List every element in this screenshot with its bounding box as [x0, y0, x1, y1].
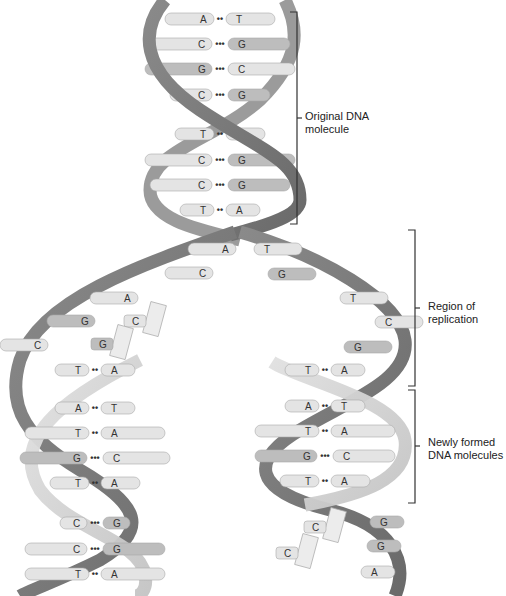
base-C: C — [150, 38, 212, 50]
base-C: C — [0, 339, 48, 351]
base-letter: T — [350, 293, 356, 304]
base-letter: G — [113, 544, 121, 555]
label-original-dna: Original DNA molecule — [305, 110, 369, 136]
base-letter: C — [312, 522, 319, 533]
hydrogen-bonds: •• — [92, 478, 98, 488]
base-T: T — [25, 568, 89, 580]
base-letter: C — [343, 451, 350, 462]
base-T: T — [55, 364, 89, 376]
base-G: G — [103, 517, 130, 529]
base-letter: C — [198, 180, 205, 191]
base-letter: A — [111, 569, 118, 580]
base-letter: C — [113, 453, 120, 464]
base-A: A — [331, 475, 370, 487]
base-C: C — [25, 543, 87, 555]
base-A: A — [101, 364, 135, 376]
base-pair: AT•• — [285, 400, 365, 412]
base-T: T — [254, 243, 302, 255]
base-letter: G — [198, 64, 206, 75]
base-A: A — [90, 292, 138, 304]
base-G: G — [228, 89, 270, 101]
base-pair: CG••• — [150, 38, 290, 50]
base-T: T — [340, 292, 388, 304]
hydrogen-bonds: •• — [92, 403, 98, 413]
base-A: A — [331, 425, 395, 437]
base-letter: A — [200, 14, 207, 25]
base-letter: A — [371, 567, 378, 578]
base-letter: T — [341, 401, 347, 412]
base-G: G — [228, 38, 290, 50]
base-letter: G — [113, 518, 121, 529]
base-C: C — [60, 517, 87, 529]
base-letter: A — [75, 403, 82, 414]
base-pair: TA•• — [25, 427, 165, 439]
base-letter: C — [73, 518, 80, 529]
base-letter: T — [111, 403, 117, 414]
label-newly-formed: Newly formed DNA molecules — [428, 436, 503, 462]
base-letter: T — [75, 365, 81, 376]
base-T: T — [25, 427, 89, 439]
base-G: G — [370, 516, 404, 528]
base-T: T — [175, 128, 214, 140]
base-letter: A — [305, 401, 312, 412]
base-letter: C — [199, 268, 206, 279]
base-letter: A — [341, 426, 348, 437]
base-G: G — [103, 543, 165, 555]
base-letter: C — [284, 548, 291, 559]
base-letter: C — [132, 316, 139, 327]
base-T: T — [101, 402, 135, 414]
hydrogen-bonds: ••• — [90, 544, 99, 554]
base-letter: A — [341, 365, 348, 376]
base-letter: G — [238, 155, 246, 166]
base-letter: G — [380, 517, 388, 528]
base-letter: T — [264, 244, 270, 255]
hydrogen-bonds: •• — [217, 205, 223, 215]
base-letter: C — [198, 39, 205, 50]
hydrogen-bonds: ••• — [215, 39, 224, 49]
base-letter: G — [73, 453, 81, 464]
hydrogen-bonds: •• — [322, 401, 328, 411]
base-A: A — [188, 243, 236, 255]
base-A: A — [331, 364, 365, 376]
base-letter: G — [238, 90, 246, 101]
base-pair: AT•• — [165, 13, 275, 25]
base-pair: TA•• — [280, 475, 370, 487]
base-T: T — [331, 400, 365, 412]
base-T: T — [50, 477, 89, 489]
label-region-of-replication: Region of replication — [428, 300, 478, 326]
base-pair: AT•• — [55, 402, 135, 414]
base-letter: T — [200, 129, 206, 140]
hydrogen-bonds: •• — [217, 14, 223, 24]
hydrogen-bonds: •• — [322, 476, 328, 486]
base-C: C — [165, 267, 213, 279]
base-letter: C — [198, 90, 205, 101]
base-pair: TA•• — [55, 364, 135, 376]
original-helix: AT••CG•••GC•••CG•••TA••CG•••CG•••TA•• — [145, 0, 300, 240]
base-C: C — [103, 452, 170, 464]
base-letter: G — [238, 180, 246, 191]
base-A: A — [101, 477, 140, 489]
base-C: C — [145, 154, 212, 166]
hydrogen-bonds: •• — [322, 365, 328, 375]
hydrogen-bonds: ••• — [215, 64, 224, 74]
base-pair: CG••• — [150, 179, 290, 191]
base-pair: GC••• — [20, 452, 170, 464]
base-T: T — [255, 425, 319, 437]
hydrogen-bonds: ••• — [215, 155, 224, 165]
base-letter: G — [377, 541, 385, 552]
base-T: T — [180, 204, 214, 216]
base-C: C — [375, 316, 423, 328]
base-letter: G — [354, 342, 362, 353]
hydrogen-bonds: ••• — [215, 180, 224, 190]
base-letter: T — [75, 428, 81, 439]
base-letter: G — [81, 316, 89, 327]
base-letter: G — [278, 269, 286, 280]
base-A: A — [55, 402, 89, 414]
base-T: T — [280, 475, 319, 487]
base-letter: A — [341, 476, 348, 487]
base-C: C — [333, 450, 395, 462]
base-letter: G — [99, 339, 107, 350]
base-G: G — [268, 268, 316, 280]
base-pair: TA•• — [50, 477, 140, 489]
base-letter: A — [111, 478, 118, 489]
